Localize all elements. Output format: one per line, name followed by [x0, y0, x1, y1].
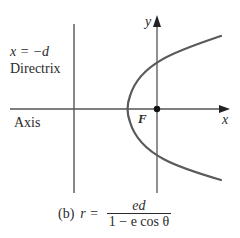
axis-label: Axis [14, 115, 40, 131]
y-axis-arrow-icon [153, 15, 161, 27]
directrix-label: Directrix [10, 61, 61, 77]
caption-lhs: r = [80, 206, 98, 222]
caption-fraction: ed 1 − e cos θ [107, 198, 171, 230]
focus-point [154, 106, 160, 112]
caption-formula: (b) r = ed 1 − e cos θ [58, 198, 171, 230]
focus-label: F [138, 111, 147, 127]
directrix-equation: x = −d [10, 44, 49, 60]
x-axis-label: x [222, 112, 228, 128]
caption-denominator: 1 − e cos θ [107, 214, 171, 230]
caption-part-label: (b) [58, 206, 74, 222]
parabola-curve [128, 36, 221, 180]
caption-numerator: ed [128, 198, 149, 213]
y-axis-label: y [145, 14, 151, 30]
